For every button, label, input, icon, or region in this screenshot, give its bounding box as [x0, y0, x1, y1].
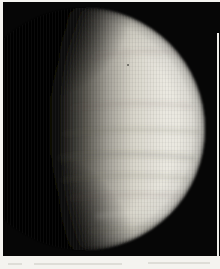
venus-photo — [3, 2, 220, 256]
scan-smudge — [34, 263, 122, 265]
scan-smudge — [148, 262, 210, 264]
page — [0, 0, 220, 269]
venus-photo-art — [3, 2, 220, 256]
scan-smudge — [8, 263, 22, 265]
photo-border-right — [217, 33, 219, 256]
